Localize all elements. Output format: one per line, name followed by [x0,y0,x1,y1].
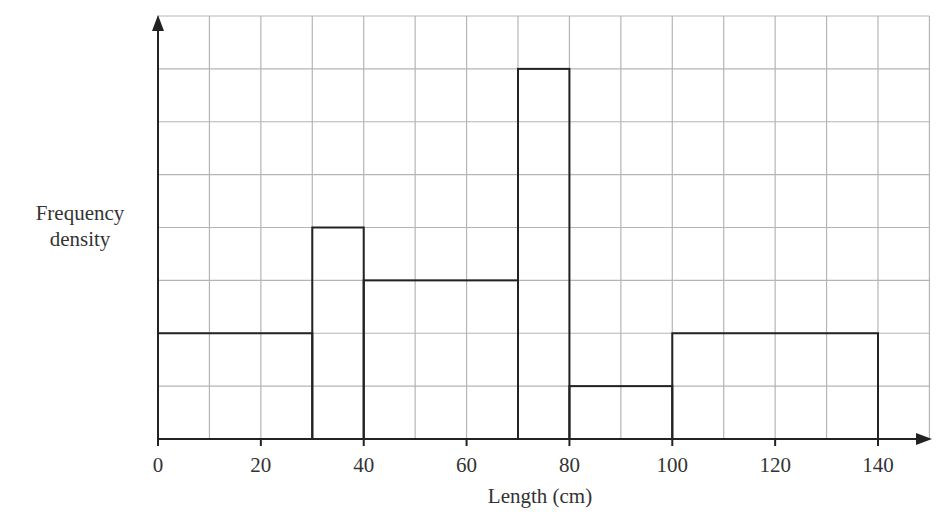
x-tick-label: 20 [250,453,271,477]
x-tick-label: 40 [353,453,374,477]
x-tick-label: 80 [559,453,580,477]
x-tick-label: 60 [456,453,477,477]
x-tick-label: 120 [759,453,791,477]
x-tick-label: 140 [862,453,894,477]
x-axis-label: Length (cm) [488,484,592,508]
x-axis-ticks: 020406080100120140 [153,439,894,477]
grid-lines [158,16,929,439]
axes [152,15,932,445]
y-axis-arrow-icon [152,15,164,31]
histogram-bars [158,69,878,439]
x-tick-label: 0 [153,453,164,477]
histogram-bar [364,280,518,439]
x-tick-label: 100 [657,453,689,477]
histogram-chart: 020406080100120140 Length (cm) [0,0,947,529]
histogram-bar [518,69,569,439]
